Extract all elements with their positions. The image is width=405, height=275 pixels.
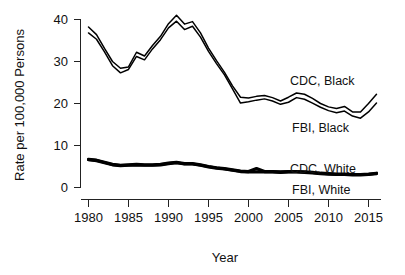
y-axis-title: Rate per 100,000 Persons — [12, 29, 27, 181]
x-tick-label-1995: 1995 — [194, 210, 223, 225]
series-label-cdc-black: CDC, Black — [290, 74, 355, 88]
y-tick-label-20: 20 — [54, 96, 68, 111]
y-tick-label-10: 10 — [54, 138, 68, 153]
x-tick-label-1990: 1990 — [154, 210, 183, 225]
series-line-fbi-black — [89, 21, 377, 118]
x-axis-ticks — [89, 200, 369, 207]
y-tick-label-30: 30 — [54, 54, 68, 69]
series-label-fbi-black: FBI, Black — [292, 121, 350, 135]
line-chart-canvas: 40 30 20 10 0 1980 1985 1990 1995 2000 2… — [0, 0, 405, 275]
chart-figure: 40 30 20 10 0 1980 1985 1990 1995 2000 2… — [0, 0, 405, 275]
x-tick-label-2010: 2010 — [314, 210, 343, 225]
series-label-fbi-white: FBI, White — [292, 183, 350, 197]
x-tick-label-1980: 1980 — [74, 210, 103, 225]
x-axis-title: Year — [212, 250, 239, 265]
x-tick-label-2000: 2000 — [234, 210, 263, 225]
y-tick-label-40: 40 — [54, 12, 68, 27]
series-label-cdc-white: CDC, White — [290, 162, 356, 176]
x-tick-label-2015: 2015 — [354, 210, 383, 225]
y-tick-label-0: 0 — [61, 180, 68, 195]
y-axis-ticks — [74, 20, 80, 188]
series-lines-group — [89, 15, 377, 175]
x-tick-label-1985: 1985 — [114, 210, 143, 225]
x-tick-label-2005: 2005 — [274, 210, 303, 225]
